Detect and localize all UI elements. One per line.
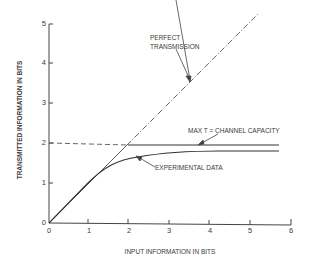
- y-axis-title: TRANSMITTED INFORMATION IN BITS: [16, 60, 23, 179]
- y-tick-4: 4: [42, 58, 46, 67]
- capacity-extension-line: [49, 143, 128, 145]
- perfect-label-line1: PERFECT: [150, 34, 180, 41]
- x-tick-0: 0: [47, 226, 51, 235]
- x-tick-5: 5: [248, 226, 252, 235]
- experimental-data-curve: [49, 151, 279, 223]
- y-tick-3: 3: [42, 98, 46, 107]
- capacity-label: MAX T = CHANNEL CAPACITY: [188, 127, 280, 134]
- x-tick-4: 4: [208, 226, 212, 235]
- chart: 0 1 2 3 4 5 6 0 1 2 3 4 5 PERFECT TRANSM…: [0, 0, 311, 267]
- x-tick-1: 1: [87, 226, 91, 235]
- x-axis: [49, 223, 291, 225]
- y-tick-0: 0: [42, 218, 46, 227]
- experimental-arrowhead: [136, 156, 142, 161]
- x-axis-title: INPUT INFORMATION IN BITS: [125, 248, 216, 255]
- experimental-label: EXPERIMENTAL DATA: [155, 164, 223, 171]
- perfect-label-line2: TRANSMISSION: [150, 43, 200, 50]
- capacity-arrowhead: [198, 140, 204, 145]
- x-tick-3: 3: [167, 226, 171, 235]
- y-tick-1: 1: [42, 178, 46, 187]
- y-tick-5: 5: [42, 19, 46, 28]
- y-tick-2: 2: [42, 138, 46, 147]
- x-tick-2: 2: [127, 226, 131, 235]
- perfect-arrowhead: [186, 76, 191, 82]
- y-ticks: [49, 24, 53, 183]
- x-tick-6: 6: [289, 226, 293, 235]
